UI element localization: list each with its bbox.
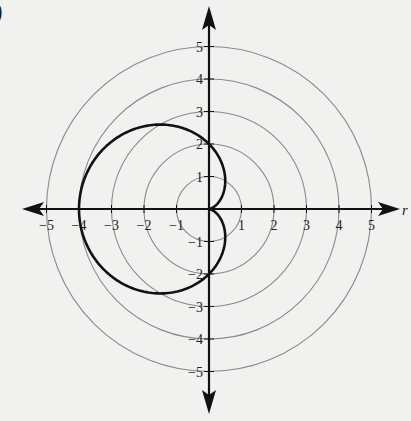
x-tick-label: 5 bbox=[368, 218, 375, 233]
x-tick-label: 2 bbox=[271, 218, 278, 233]
y-tick-label: −3 bbox=[188, 300, 203, 315]
x-tick-label: −1 bbox=[169, 218, 184, 233]
x-tick-label: −3 bbox=[104, 218, 119, 233]
x-tick-label: −2 bbox=[137, 218, 152, 233]
y-tick-label: −1 bbox=[188, 235, 203, 250]
polar-plot: r −5−4−3−2−112345−5−4−3−2−112345 bbox=[0, 0, 411, 421]
y-tick-label: 3 bbox=[196, 105, 203, 120]
x-tick-label: 4 bbox=[336, 218, 343, 233]
y-tick-label: −5 bbox=[188, 365, 203, 380]
y-tick-label: 5 bbox=[196, 40, 203, 55]
y-tick-label: −4 bbox=[188, 332, 203, 347]
x-tick-label: 1 bbox=[238, 218, 245, 233]
x-axis-label: r bbox=[402, 202, 408, 218]
x-tick-label: 3 bbox=[303, 218, 310, 233]
y-tick-label: 4 bbox=[196, 72, 203, 87]
x-tick-label: −5 bbox=[39, 218, 54, 233]
y-tick-label: 1 bbox=[196, 170, 203, 185]
polar-graph-figure: ) r −5−4−3−2−112345−5−4−3−2−112345 bbox=[0, 0, 411, 421]
